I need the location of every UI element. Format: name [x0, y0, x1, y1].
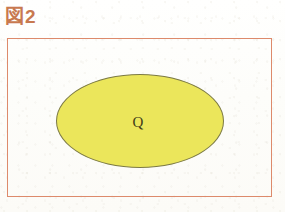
set-q-label: Q — [133, 115, 144, 130]
figure-caption: 図 2 — [5, 7, 36, 26]
figure-caption-number: 2 — [25, 7, 36, 26]
figure-caption-kanji: 図 — [5, 7, 24, 26]
figure-page: 図 2 Q — [0, 0, 285, 212]
set-q-ellipse: Q — [56, 74, 224, 168]
